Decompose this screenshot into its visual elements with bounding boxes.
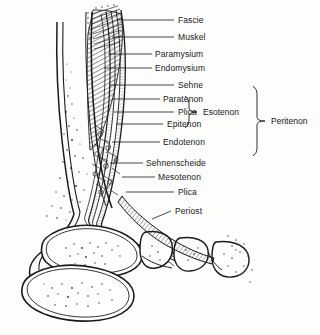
leader-line-periost: [152, 211, 171, 219]
bracket-label-esotenon: Esotenon: [203, 107, 239, 117]
label-plica-2: Plica: [178, 188, 197, 197]
bracket-label-peritenon: Peritenon: [271, 116, 307, 126]
label-endomysium: Endomysium: [155, 64, 205, 73]
tarsal-bones: [22, 225, 249, 321]
label-paratenon: Paratenon: [163, 95, 203, 104]
label-epitenon: Epitenon: [167, 120, 201, 129]
label-mesotenon: Mesotenon: [158, 173, 201, 182]
label-muskel: Muskel: [178, 33, 206, 42]
label-sehne: Sehne: [178, 81, 203, 90]
label-sehnenscheide: Sehnenscheide: [146, 159, 206, 168]
label-plica-1: Plica: [178, 108, 197, 117]
label-fascie: Fascie: [178, 16, 204, 25]
bracket-peritenon: [253, 86, 265, 156]
label-periost: Periost: [175, 207, 202, 216]
label-endotenon: Endotenon: [163, 138, 205, 147]
label-paramysium: Paramysium: [155, 50, 203, 59]
